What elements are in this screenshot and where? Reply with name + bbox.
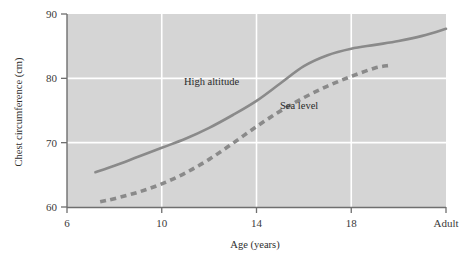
series-annotation-label: Sea level <box>280 100 318 111</box>
chart-container: 60708090 6101418Adult High altitudeSea l… <box>0 0 474 260</box>
y-axis-tick-label: 70 <box>46 137 58 149</box>
x-axis-title: Age (years) <box>230 239 280 251</box>
x-axis-tick-label: 14 <box>251 217 263 229</box>
x-axis-tick-label: Adult <box>433 217 458 229</box>
y-axis-tick-label: 60 <box>46 201 58 213</box>
y-axis-title: Chest circumference (cm) <box>13 57 25 167</box>
x-axis-tick-label: 6 <box>64 217 70 229</box>
y-axis-tick-label: 90 <box>46 8 58 20</box>
y-axis-tick-label: 80 <box>46 72 58 84</box>
chest-circumference-line-chart: 60708090 6101418Adult High altitudeSea l… <box>0 0 474 260</box>
x-axis-tick-label: 18 <box>346 217 358 229</box>
x-axis-tick-label: 10 <box>156 217 168 229</box>
series-annotation-label: High altitude <box>184 76 239 87</box>
